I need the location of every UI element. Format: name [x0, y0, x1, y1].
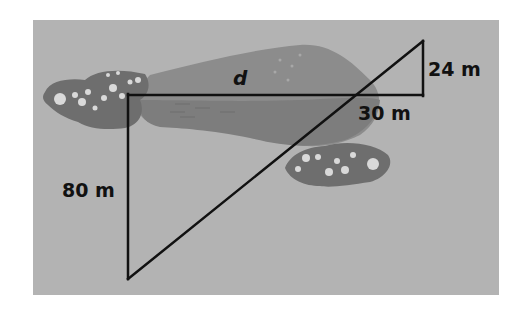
label-small-base: 30 m — [358, 104, 411, 123]
diagram-canvas — [0, 0, 516, 317]
diagram-figure: d 24 m 30 m 80 m — [0, 0, 516, 317]
label-small-height: 24 m — [428, 60, 481, 79]
label-d: d — [233, 68, 247, 88]
label-left-leg: 80 m — [62, 181, 115, 200]
